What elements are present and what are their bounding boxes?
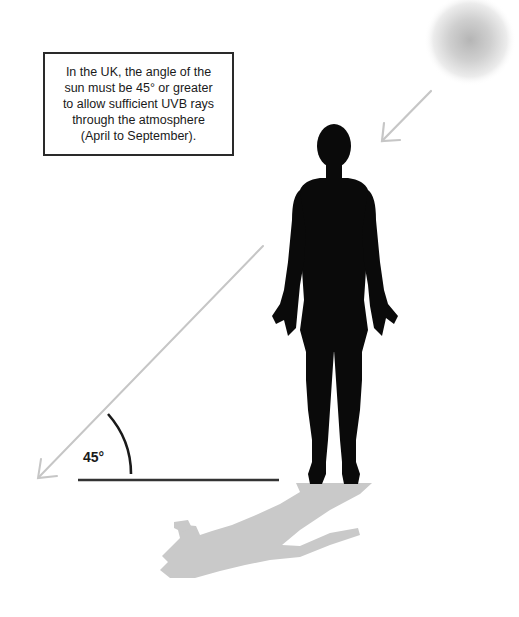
info-line-2: sun must be 45° or greater <box>64 80 212 96</box>
info-line-1: In the UK, the angle of the <box>66 64 211 80</box>
sun-icon <box>424 0 516 86</box>
shadow <box>160 483 372 578</box>
info-line-4: through the atmosphere <box>72 112 205 128</box>
angle-arc <box>108 414 131 474</box>
angle-label: 45° <box>83 449 104 465</box>
diagram-canvas: In the UK, the angle of the sun must be … <box>0 0 519 617</box>
info-text-box: In the UK, the angle of the sun must be … <box>43 52 234 156</box>
human-silhouette <box>272 124 398 484</box>
sun-ray-short-arrow-icon <box>382 91 431 141</box>
info-line-3: to allow sufficient UVB rays <box>63 96 214 112</box>
info-line-5: (April to September). <box>81 128 196 144</box>
sun-ray-long-arrow-icon <box>38 246 263 478</box>
